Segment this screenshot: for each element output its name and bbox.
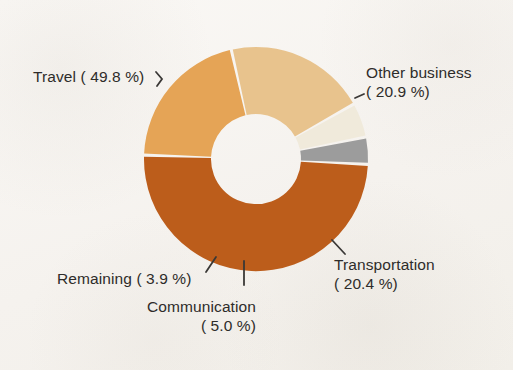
- slice-label-remaining: Remaining ( 3.9 %): [57, 269, 191, 288]
- slice-label-other-business-name: Other business: [366, 63, 472, 82]
- leader-line-other-business: [355, 94, 364, 98]
- leader-line-transportation: [332, 240, 345, 254]
- slice-other-business[interactable]: [144, 50, 245, 157]
- slice-label-communication: Communication ( 5.0 %): [86, 297, 256, 335]
- slice-label-communication-name: Communication: [86, 297, 256, 316]
- slice-label-travel: Travel ( 49.8 %): [33, 67, 144, 86]
- slice-label-transportation-value: ( 20.4 %): [334, 274, 435, 293]
- slice-travel[interactable]: [144, 157, 368, 272]
- slice-label-other-business-value: ( 20.9 %): [366, 82, 472, 101]
- donut-chart-figure: Travel ( 49.8 %) Other business ( 20.9 %…: [0, 0, 513, 370]
- leader-line-travel: [156, 72, 162, 86]
- slice-label-communication-value: ( 5.0 %): [86, 316, 256, 335]
- slice-label-transportation: Transportation ( 20.4 %): [334, 255, 435, 293]
- slice-label-remaining-text: Remaining ( 3.9 %): [57, 269, 191, 288]
- slice-label-transportation-name: Transportation: [334, 255, 435, 274]
- slice-label-travel-text: Travel ( 49.8 %): [33, 67, 144, 86]
- slice-label-other-business: Other business ( 20.9 %): [366, 63, 472, 101]
- donut-chart-svg: [0, 0, 513, 370]
- donut-slices: [144, 47, 368, 271]
